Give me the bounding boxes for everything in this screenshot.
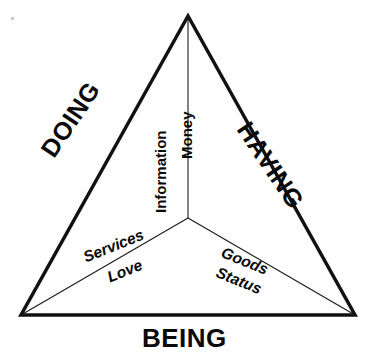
diagram-canvas: DOING HAVING BEING Information Money Ser… bbox=[0, 0, 375, 364]
spoke-label-information: Information bbox=[153, 131, 168, 214]
scan-artifact-speck bbox=[11, 17, 14, 20]
triangle-graphic bbox=[0, 0, 375, 364]
spoke-lower-left-line bbox=[21, 218, 188, 315]
spoke-label-money: Money bbox=[179, 111, 194, 159]
spoke-lower-right-line bbox=[188, 218, 355, 315]
corner-label-being: BEING bbox=[142, 325, 227, 351]
